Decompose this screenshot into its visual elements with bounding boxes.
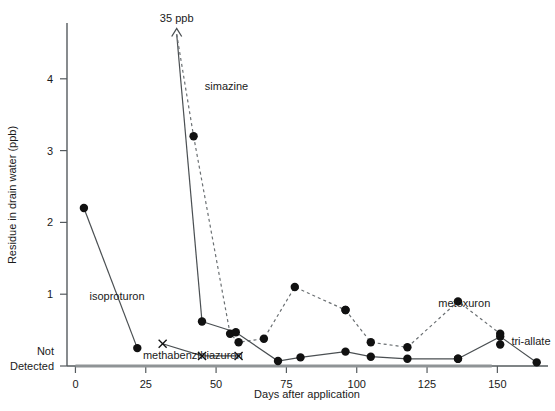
annotations-group: 35 ppb [160,12,194,37]
y-tick-label-1: 1 [47,288,53,300]
series-label-tri-allate: tri-allate [511,335,550,347]
data-point-tri-allate-2 [533,358,541,366]
y-tick-label-2: 2 [47,216,53,228]
data-point-simazine-0 [189,132,197,140]
x-tick-label-50: 50 [210,378,222,390]
series-markers-group [80,132,541,367]
data-point-simazine-4 [291,283,299,291]
series-lines-group [75,34,536,366]
data-point-isoproturon-0 [80,204,88,212]
data-point-simazine-decline-1 [232,328,240,336]
data-point-metoxuron-2 [403,343,411,351]
data-point-simazine-decline-3 [296,353,304,361]
series-line-simazine [194,136,346,342]
x-tick-label-25: 25 [140,378,152,390]
data-point-isoproturon-1 [133,344,141,352]
x-axis-title: Days after application [254,388,360,400]
y-axis-ticks [60,79,67,366]
series-line-simazine-offscale-stem [177,34,202,321]
y-tick-label-3: 3 [47,145,53,157]
data-point-simazine-3 [260,335,268,343]
data-point-metoxuron-0 [341,306,349,314]
y-tick-label-4: 4 [47,73,53,85]
series-label-methabenzthiazuron: methabenzthiazuron [143,349,243,361]
series-label-simazine: simazine [205,80,248,92]
y-tick-label-not-detected-line2: Detected [10,360,54,372]
tick-labels-group: NotDetected12340255075100125150 [10,73,507,390]
data-point-tri-allate-extra-point-0 [496,340,504,348]
series-label-isoproturon: isoproturon [90,290,145,302]
x-tick-label-150: 150 [488,378,506,390]
data-point-methabenzthiazuron-0 [159,340,167,348]
data-point-simazine-decline-5 [367,353,375,361]
x-tick-label-0: 0 [72,378,78,390]
data-point-tri-allate-0 [454,355,462,363]
chart-container: NotDetected12340255075100125150 isoprotu… [0,0,555,411]
y-axis-title: Residue in drain water (ppb) [6,126,18,264]
data-point-simazine-2 [234,338,242,346]
data-point-simazine-decline-0 [198,317,206,325]
data-point-tri-allate-1 [496,332,504,340]
axes-group [60,23,548,373]
x-tick-label-125: 125 [418,378,436,390]
data-point-simazine-decline-6 [403,355,411,363]
annotation-off-scale-value: 35 ppb [160,12,194,24]
data-point-simazine-decline-4 [341,347,349,355]
series-line-isoproturon [84,208,137,348]
data-point-simazine-decline-2 [274,357,282,365]
data-point-metoxuron-1 [367,338,375,346]
y-tick-label-not-detected-line1: Not [37,345,54,357]
residue-line-chart: NotDetected12340255075100125150 isoprotu… [0,0,555,411]
series-label-metoxuron: metoxuron [438,297,490,309]
series-line-simazine-offscale-dashed [177,34,194,136]
